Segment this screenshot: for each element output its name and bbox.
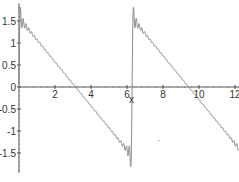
- y-tick-label: -1.5: [0, 148, 16, 159]
- x-tick-label: 8: [160, 89, 166, 100]
- y-tick-label: 1: [10, 38, 16, 49]
- y-tick-label: -0.5: [0, 104, 16, 115]
- x-tick-label: 12: [229, 89, 239, 100]
- stray-mark: [158, 140, 160, 141]
- y-tick-label: 1.5: [2, 16, 16, 27]
- x-axis-label: x: [129, 94, 134, 105]
- chart: 246810121.510.50-0.5-1-1.5 x: [0, 0, 239, 182]
- x-tick-label: 2: [52, 89, 58, 100]
- y-tick-label: -1: [7, 126, 16, 137]
- y-tick-label: 0.5: [2, 60, 16, 71]
- x-tick-label: 4: [88, 89, 94, 100]
- y-tick-label: 0: [10, 82, 16, 93]
